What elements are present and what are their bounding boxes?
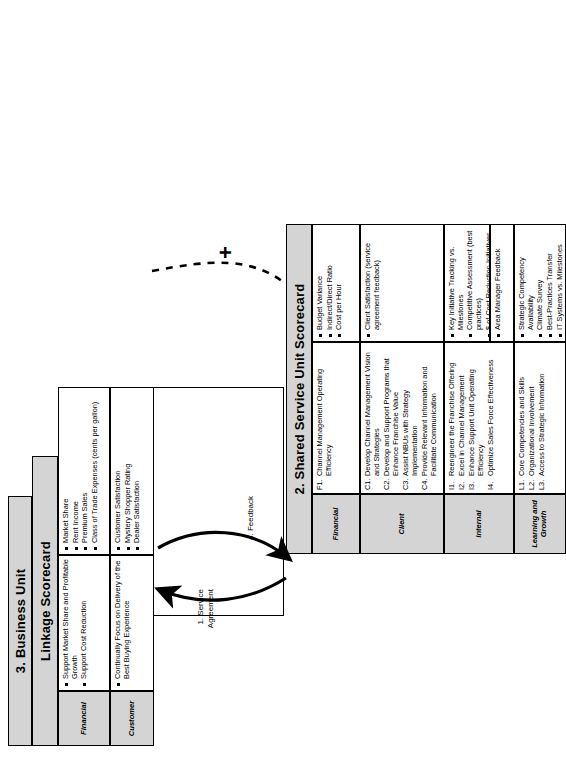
ssu-objective: L2. Organizational Involvement xyxy=(528,346,537,490)
ssu-objective: C4. Provide Relevant Information and Fac… xyxy=(421,346,438,490)
linkage-measure: Dealer Satisfaction xyxy=(133,391,142,551)
ssu-objective-number: L2. xyxy=(528,480,537,490)
feedback-label: 4. Feedback xyxy=(246,470,256,540)
ssu-perspective-internal: Internal xyxy=(444,494,514,554)
linkage-open-panel xyxy=(154,387,284,616)
ssu-objective-text: Optimize Sales Force Effectiveness xyxy=(486,359,495,476)
ssu-objective-number: I4. xyxy=(487,482,496,490)
shared-service-unit-scorecard-title: 2. Shared Service Unit Scorecard xyxy=(286,224,312,554)
ssu-measures-learning-and-growth: Strategic Competency Availability Climat… xyxy=(514,224,566,342)
link-marker-plus: + xyxy=(215,246,237,259)
ssu-measure: Competitive Assessment (best practices) xyxy=(466,228,483,338)
ssu-objective-text: Core Competencies and Skills xyxy=(517,377,526,476)
ssu-objectives-client: C1. Develop Channel Management Vision an… xyxy=(360,342,444,494)
ssu-objective: C3. Assist NBUs with Strategy Implementa… xyxy=(402,346,419,490)
business-unit-header: 3. Business Unit xyxy=(8,496,32,746)
ssu-objective-text: Organizational Involvement xyxy=(527,386,536,476)
ssu-objective: C1. Develop Channel Management Vision an… xyxy=(364,346,381,490)
ssu-measure: Climate Survey xyxy=(536,228,545,338)
linkage-measure: Rent Income xyxy=(72,391,81,551)
ssu-objective-text: Access to Strategic Information xyxy=(537,374,546,476)
ssu-objective-number: C1. xyxy=(364,478,373,490)
linkage-objective: Continually Focus on Delivery of the Bes… xyxy=(114,559,131,687)
ssu-objective-text: Develop Channel Management Vision and St… xyxy=(363,352,381,476)
ssu-measures-internal-a: Key Initiative Tracking vs. Milestones C… xyxy=(444,224,490,342)
ssu-measure: IT Systems vs. Milestones xyxy=(556,228,565,338)
ssu-objective-text: Excel in Channel Management xyxy=(457,375,466,476)
linkage-objective: Support Market Share and Profitable Grow… xyxy=(62,559,79,687)
ssu-objective-text: Assist NBUs with Strategy Implementation xyxy=(401,390,419,476)
ssu-objective-number: L3. xyxy=(538,480,547,490)
ssu-measure: Budget Variance xyxy=(316,228,325,338)
ssu-objective-number: C2. xyxy=(383,478,392,490)
linkage-measure: Class of Trade Expenses (cents per gallo… xyxy=(91,391,100,551)
ssu-objective-number: C3. xyxy=(402,478,411,490)
ssu-objective: I1. Reengineer the Franchise Offering xyxy=(448,346,457,490)
ssu-measure: Strategic Competency Availability xyxy=(518,228,535,338)
ssu-objectives-internal: I1. Reengineer the Franchise Offering I2… xyxy=(444,342,514,494)
ssu-measure: Cost per Hour xyxy=(335,228,344,338)
linkage-objective: Support Cost Reduction xyxy=(80,559,89,687)
linkage-perspective-customer: Customer xyxy=(110,691,154,746)
ssu-measures-financial: Budget Variance Indirect/Direct Ratio Co… xyxy=(312,224,360,342)
ssu-objectives-financial: F1. Channel Management Operating Efficie… xyxy=(312,342,360,494)
linkage-objectives-financial: Support Market Share and Profitable Grow… xyxy=(58,555,110,691)
ssu-measure: Client Satisfaction (service agreement f… xyxy=(364,228,381,338)
linkage-measures-customer: Customer Satisfaction Mystery Shopper Ra… xyxy=(110,387,154,555)
ssu-measures-internal-b: Area Manager Feedback xyxy=(490,224,514,342)
ssu-perspective-financial: Financial xyxy=(312,494,360,554)
ssu-measure: Area Manager Feedback xyxy=(494,228,503,338)
linkage-scorecard-title: Linkage Scorecard xyxy=(32,456,58,746)
linkage-dashed-connector xyxy=(152,263,286,284)
ssu-objective: L3. Access to Strategic Information xyxy=(538,346,547,490)
ssu-measure: Key Initiative Tracking vs. Milestones xyxy=(448,228,465,338)
ssu-objective: C2. Develop and Support Programs that En… xyxy=(383,346,400,490)
ssu-objective-text: Channel Management Operating Efficiency xyxy=(315,369,333,476)
ssu-objective-text: Develop and Support Programs that Enhanc… xyxy=(382,358,400,476)
linkage-measures-financial: Market Share Rent Income Premium Sales C… xyxy=(58,387,110,555)
ssu-objective-text: Reengineer the Franchise Offering xyxy=(447,363,456,476)
ssu-measure: Indirect/Direct Ratio xyxy=(326,228,335,338)
ssu-objectives-learning-and-growth: L1. Core Competencies and Skills L2. Org… xyxy=(514,342,566,494)
ssu-objective-number: I2. xyxy=(458,482,467,490)
ssu-objective-number: C4. xyxy=(421,478,430,490)
ssu-measure: Best-Practices Transfer xyxy=(546,228,555,338)
linkage-measure: Customer Satisfaction xyxy=(114,391,123,551)
ssu-objective-text: Enhance Support Unit Operating Efficienc… xyxy=(467,369,485,476)
ssu-objective-number: L1. xyxy=(518,480,527,490)
ssu-perspective-client: Client xyxy=(360,494,444,554)
ssu-objective-number: I3. xyxy=(468,482,477,490)
ssu-objective-number: F1. xyxy=(316,479,325,490)
linkage-perspective-financial: Financial xyxy=(58,691,110,746)
linkage-measure: Mystery Shopper Rating xyxy=(124,391,133,551)
ssu-objective-number: I1. xyxy=(448,482,457,490)
ssu-objective-text: Provide Relevant Information and Facilit… xyxy=(420,366,438,476)
linkage-measure: Premium Sales xyxy=(81,391,90,551)
ssu-objective: I3. Enhance Support Unit Operating Effic… xyxy=(468,346,485,490)
ssu-objective: L1. Core Competencies and Skills xyxy=(518,346,527,490)
ssu-objective: I4. Optimize Sales Force Effectiveness xyxy=(487,346,496,490)
ssu-objective: F1. Channel Management Operating Efficie… xyxy=(316,346,333,490)
service-agreement-label: 1. Service Agreement xyxy=(196,589,215,651)
ssu-objective: I2. Excel in Channel Management xyxy=(458,346,467,490)
linkage-objectives-customer: Continually Focus on Delivery of the Bes… xyxy=(110,555,154,691)
ssu-measures-client: Client Satisfaction (service agreement f… xyxy=(360,224,444,342)
ssu-perspective-learning-and-growth: Learning and Growth xyxy=(514,494,566,554)
linkage-measure: Market Share xyxy=(62,391,71,551)
